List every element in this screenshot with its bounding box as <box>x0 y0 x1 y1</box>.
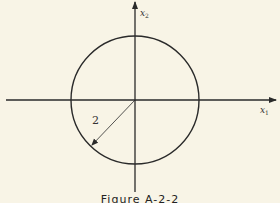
x2-axis-label: x2 <box>140 8 149 19</box>
figure-caption: Figure A-2-2 <box>0 193 280 203</box>
radius-label: 2 <box>92 114 99 127</box>
diagram-canvas: x2 x1 2 <box>0 0 280 203</box>
x1-axis-label: x1 <box>260 105 269 116</box>
